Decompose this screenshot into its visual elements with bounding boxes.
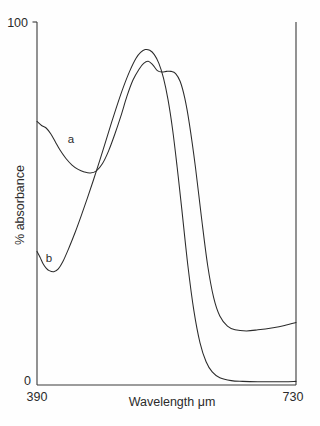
- x-axis-title: Wavelength μm: [129, 395, 216, 409]
- x-axis-left-tick-label: 390: [27, 390, 48, 404]
- absorbance-spectrum-chart: 100 0 390 730 Wavelength μm % absorbance…: [0, 0, 320, 426]
- chart-page: 100 0 390 730 Wavelength μm % absorbance…: [0, 0, 320, 426]
- y-axis-top-tick-label: 100: [7, 16, 28, 30]
- y-axis-title: % absorbance: [13, 165, 27, 245]
- y-axis-bottom-tick-label: 0: [24, 374, 31, 388]
- curve-b-label: b: [46, 252, 52, 264]
- curve-b: [37, 49, 296, 381]
- curve-a: [37, 61, 296, 331]
- curve-a-label: a: [68, 133, 75, 145]
- x-axis-right-tick-label: 730: [283, 390, 304, 404]
